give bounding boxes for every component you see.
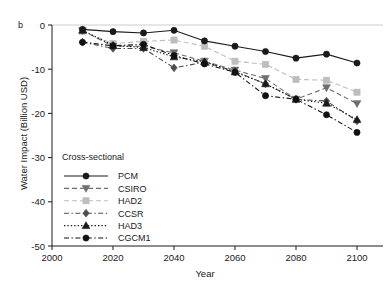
data-point-marker xyxy=(232,69,238,75)
series-cgcm1 xyxy=(79,39,360,135)
legend-layer: Cross-sectionalPCMCSIROHAD2CCSRHAD3CGCM1 xyxy=(62,152,151,243)
data-point-marker xyxy=(171,52,177,58)
x-tick-label: 2000 xyxy=(41,252,62,263)
legend-label: HAD2 xyxy=(118,196,142,206)
plot-area: 0-10-20-30-40-50200020202040206020802100… xyxy=(0,0,388,292)
data-point-marker xyxy=(232,58,238,64)
data-point-marker xyxy=(79,39,85,45)
data-point-marker xyxy=(83,198,89,204)
data-point-marker xyxy=(171,64,177,72)
data-point-marker xyxy=(232,43,238,49)
data-point-marker xyxy=(353,101,361,108)
legend-item-had2[interactable]: HAD2 xyxy=(64,196,142,206)
data-point-marker xyxy=(323,112,329,118)
legend-title: Cross-sectional xyxy=(62,152,124,162)
data-point-marker xyxy=(83,173,89,179)
data-point-marker xyxy=(83,235,89,241)
x-tick-label: 2100 xyxy=(346,252,367,263)
water-impact-chart-figure: b Water Impact (Billion USD) Year 0-10-2… xyxy=(0,0,388,292)
legend-item-pcm[interactable]: PCM xyxy=(64,171,138,181)
legend-label: CGCM1 xyxy=(118,233,151,243)
legend-label: HAD3 xyxy=(118,221,142,231)
series-layer xyxy=(79,26,361,135)
data-point-marker xyxy=(293,96,299,102)
y-tick-label: 0 xyxy=(40,20,45,31)
x-tick-label: 2040 xyxy=(163,252,184,263)
x-tick-label: 2020 xyxy=(102,252,123,263)
x-tick-label: 2060 xyxy=(224,252,245,263)
data-point-marker xyxy=(354,60,360,66)
data-point-marker xyxy=(262,61,268,67)
data-point-marker xyxy=(354,129,360,135)
legend-item-cgcm1[interactable]: CGCM1 xyxy=(64,233,151,243)
x-tick-label: 2080 xyxy=(285,252,306,263)
legend-item-had3[interactable]: HAD3 xyxy=(64,221,142,231)
legend-label: PCM xyxy=(118,171,138,181)
y-tick-label: -10 xyxy=(31,64,45,75)
data-point-marker xyxy=(262,48,268,54)
data-point-marker xyxy=(262,93,268,99)
data-point-marker xyxy=(171,27,177,33)
data-point-marker xyxy=(323,85,331,92)
x-axis-label: Year xyxy=(52,268,358,279)
legend-item-csiro[interactable]: CSIRO xyxy=(64,184,147,194)
data-point-marker xyxy=(83,209,89,217)
data-point-marker xyxy=(140,41,146,47)
data-point-marker xyxy=(110,29,116,35)
data-point-marker xyxy=(293,76,299,82)
data-point-marker xyxy=(323,77,329,83)
panel-label: b xyxy=(18,20,23,30)
data-point-marker xyxy=(201,38,207,44)
data-point-marker xyxy=(201,61,207,67)
data-point-marker xyxy=(79,26,85,32)
data-point-marker xyxy=(323,51,329,57)
y-tick-label: -20 xyxy=(31,108,45,119)
series-ccsr xyxy=(79,38,360,124)
series-had3 xyxy=(79,26,361,122)
series-line xyxy=(83,31,358,92)
y-tick-label: -30 xyxy=(31,152,45,163)
data-point-marker xyxy=(171,37,177,43)
data-point-marker xyxy=(354,89,360,95)
legend-label: CSIRO xyxy=(118,184,147,194)
data-point-marker xyxy=(140,30,146,36)
legend-label: CCSR xyxy=(118,209,144,219)
data-point-marker xyxy=(353,116,361,123)
data-point-marker xyxy=(110,43,116,49)
y-tick-label: -40 xyxy=(31,196,45,207)
series-had2 xyxy=(79,28,360,95)
data-point-marker xyxy=(293,55,299,61)
y-tick-label: -50 xyxy=(31,241,45,252)
y-axis-label: Water Impact (Billion USD) xyxy=(18,39,29,229)
legend-item-ccsr[interactable]: CCSR xyxy=(64,209,144,219)
